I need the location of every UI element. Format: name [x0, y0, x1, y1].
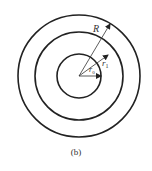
- label-r1: r1: [102, 58, 109, 69]
- label-R: R: [92, 23, 99, 34]
- label-r0: r0: [89, 65, 95, 75]
- figure-caption: (b): [0, 147, 152, 157]
- concentric-circles-diagram: R r1 r0: [0, 0, 152, 171]
